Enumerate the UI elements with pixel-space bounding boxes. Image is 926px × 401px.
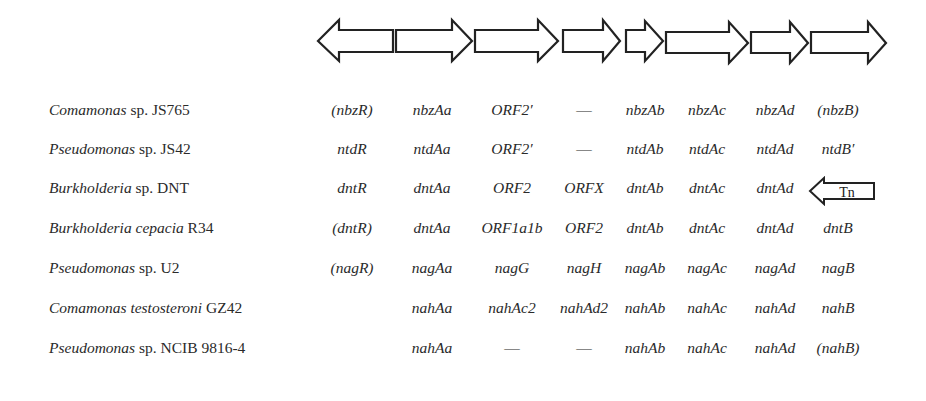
- gene-name: dntB: [823, 219, 852, 237]
- gene-name: nbzAa: [413, 101, 452, 119]
- gene-name: ntdAc: [689, 140, 725, 158]
- gene-arrow-right-icon: [626, 21, 663, 61]
- organism-label: Pseudomonas sp. JS42: [49, 140, 191, 158]
- gene-name: nagG: [495, 259, 529, 277]
- gene-name: ORF2′: [491, 140, 532, 158]
- gene-name: nahAb: [625, 339, 665, 357]
- gene-arrow-right-icon: [475, 20, 558, 61]
- organism-genus: Comamonas: [49, 101, 127, 118]
- organism-label: Pseudomonas sp. NCIB 9816-4: [49, 339, 245, 357]
- organism-label: Burkholderia cepacia R34: [49, 219, 213, 237]
- gene-name: nahB: [822, 299, 855, 317]
- organism-label: Comamonas testosteroni GZ42: [49, 299, 242, 317]
- organism-label: Pseudomonas sp. U2: [49, 259, 179, 277]
- organism-strain: sp. DNT: [132, 179, 189, 196]
- gene-name: (nagR): [330, 259, 373, 277]
- gene-name: nagH: [567, 259, 601, 277]
- organism-genus: Pseudomonas: [49, 140, 135, 157]
- gene-name: nbzAb: [626, 101, 665, 119]
- organism-label: Burkholderia sp. DNT: [49, 179, 189, 197]
- gene-name: nagB: [822, 259, 855, 277]
- gene-name: (nahB): [816, 339, 859, 357]
- organism-genus: Comamonas testosteroni: [49, 299, 202, 316]
- gene-name: nagAb: [625, 259, 665, 277]
- gene-name: nahAb: [625, 299, 665, 317]
- gene-name: dntAb: [626, 179, 663, 197]
- organism-genus: Pseudomonas: [49, 339, 135, 356]
- gene-absent-marker: —: [504, 339, 520, 357]
- gene-name: dntAd: [756, 179, 793, 197]
- gene-name: nahAd2: [560, 299, 608, 317]
- gene-name: dntAa: [413, 219, 450, 237]
- organism-strain: sp. JS765: [127, 101, 190, 118]
- gene-arrows: [0, 0, 926, 90]
- gene-name: ntdR: [337, 140, 366, 158]
- gene-arrow-right-icon: [563, 20, 620, 61]
- gene-absent-marker: —: [576, 140, 592, 158]
- organism-strain: sp. JS42: [135, 140, 191, 157]
- gene-name: dntAc: [689, 219, 725, 237]
- gene-name: nbzAd: [756, 101, 795, 119]
- organism-strain: sp. U2: [135, 259, 179, 276]
- gene-name: dntAd: [756, 219, 793, 237]
- gene-name: nbzAc: [688, 101, 726, 119]
- gene-name: (dntR): [332, 219, 372, 237]
- gene-name: ntdB′: [822, 140, 855, 158]
- gene-name: ORF2: [565, 219, 603, 237]
- gene-name: ntdAb: [626, 140, 663, 158]
- gene-name: ORF1a1b: [481, 219, 542, 237]
- gene-name: nahAc: [687, 339, 727, 357]
- organism-genus: Burkholderia cepacia: [49, 219, 184, 236]
- organism-strain: sp. NCIB 9816-4: [135, 339, 245, 356]
- gene-name: ORF2′: [491, 101, 532, 119]
- gene-name: (nbzB): [817, 101, 858, 119]
- gene-name: nahAc2: [488, 299, 535, 317]
- gene-name: ORF2: [493, 179, 531, 197]
- gene-name: dntR: [337, 179, 366, 197]
- organism-strain: GZ42: [202, 299, 242, 316]
- gene-arrow-right-icon: [811, 22, 886, 63]
- gene-name: (nbzR): [331, 101, 372, 119]
- gene-name: dntAb: [626, 219, 663, 237]
- organism-strain: R34: [184, 219, 214, 236]
- gene-name: ntdAd: [756, 140, 793, 158]
- organism-genus: Pseudomonas: [49, 259, 135, 276]
- gene-name: nahAd: [755, 299, 795, 317]
- organism-label: Comamonas sp. JS765: [49, 101, 190, 119]
- gene-name: nagAc: [687, 259, 727, 277]
- gene-arrow-right-icon: [751, 22, 808, 63]
- gene-name: dntAc: [689, 179, 725, 197]
- gene-name: nagAd: [755, 259, 795, 277]
- gene-arrow-left-icon: [318, 20, 393, 61]
- gene-name: dntAa: [413, 179, 450, 197]
- gene-name: nahAc: [687, 299, 727, 317]
- gene-name: ORFX: [564, 179, 604, 197]
- gene-name: nahAa: [412, 299, 452, 317]
- transposon-label: Tn: [839, 185, 855, 200]
- gene-name: ntdAa: [413, 140, 450, 158]
- transposon-arrow-icon: Tn: [808, 176, 878, 206]
- gene-absent-marker: —: [576, 339, 592, 357]
- gene-name: nahAd: [755, 339, 795, 357]
- organism-genus: Burkholderia: [49, 179, 132, 196]
- gene-absent-marker: —: [576, 101, 592, 119]
- gene-name: nagAa: [412, 259, 452, 277]
- gene-name: nahAa: [412, 339, 452, 357]
- gene-arrow-right-icon: [396, 20, 472, 61]
- gene-arrow-right-icon: [666, 22, 748, 63]
